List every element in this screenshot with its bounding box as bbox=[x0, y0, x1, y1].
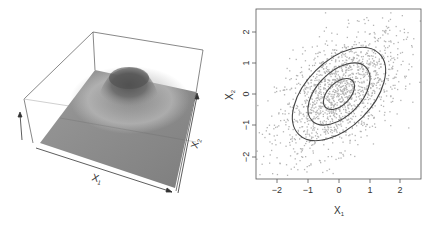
data-point bbox=[355, 100, 356, 101]
data-point bbox=[349, 51, 350, 52]
data-point bbox=[352, 84, 353, 85]
data-point bbox=[360, 137, 361, 138]
data-point bbox=[333, 115, 334, 116]
data-point bbox=[334, 112, 335, 113]
data-point bbox=[393, 57, 394, 58]
data-point bbox=[358, 66, 359, 67]
data-point bbox=[304, 88, 305, 89]
data-point bbox=[339, 77, 340, 78]
data-point bbox=[306, 171, 307, 172]
data-point bbox=[406, 76, 407, 77]
data-point bbox=[351, 51, 352, 52]
data-point bbox=[302, 75, 303, 76]
data-point bbox=[307, 82, 308, 83]
data-point bbox=[316, 117, 317, 118]
data-point bbox=[336, 78, 337, 79]
data-point bbox=[386, 78, 387, 79]
data-point bbox=[326, 62, 327, 63]
data-point bbox=[308, 124, 309, 125]
data-point bbox=[362, 101, 363, 102]
data-point bbox=[340, 87, 341, 88]
data-point bbox=[341, 126, 342, 127]
data-point bbox=[348, 122, 349, 123]
data-point bbox=[400, 30, 401, 31]
data-point bbox=[397, 54, 398, 55]
data-point bbox=[360, 68, 361, 69]
data-point bbox=[335, 75, 336, 76]
data-point bbox=[277, 135, 278, 136]
data-point bbox=[322, 97, 323, 98]
data-point bbox=[342, 121, 343, 122]
data-point bbox=[280, 142, 281, 143]
data-point bbox=[391, 58, 392, 59]
data-point bbox=[318, 88, 319, 89]
data-point bbox=[390, 12, 391, 13]
data-point bbox=[402, 61, 403, 62]
data-point bbox=[311, 70, 312, 71]
data-point bbox=[322, 129, 323, 130]
data-point bbox=[335, 71, 336, 72]
data-point bbox=[331, 156, 332, 157]
data-point bbox=[344, 44, 345, 45]
data-point bbox=[285, 146, 286, 147]
data-point bbox=[361, 122, 362, 123]
data-point bbox=[409, 83, 410, 84]
data-point bbox=[341, 137, 342, 138]
data-point bbox=[341, 68, 342, 69]
data-point bbox=[328, 133, 329, 134]
data-point bbox=[360, 115, 361, 116]
data-point bbox=[375, 64, 376, 65]
data-point bbox=[330, 76, 331, 77]
data-point bbox=[313, 111, 314, 112]
data-point bbox=[367, 60, 368, 61]
data-point bbox=[342, 69, 343, 70]
data-point bbox=[380, 84, 381, 85]
data-point bbox=[296, 134, 297, 135]
data-point bbox=[332, 132, 333, 133]
data-point bbox=[367, 108, 368, 109]
data-point bbox=[373, 25, 374, 26]
data-point bbox=[293, 99, 294, 100]
data-point bbox=[315, 84, 316, 85]
data-point bbox=[352, 134, 353, 135]
data-point bbox=[348, 68, 349, 69]
data-point bbox=[275, 144, 276, 145]
data-point bbox=[326, 40, 327, 41]
data-point bbox=[331, 56, 332, 57]
data-point bbox=[357, 70, 358, 71]
data-point bbox=[380, 37, 381, 38]
data-point bbox=[362, 61, 363, 62]
data-point bbox=[337, 105, 338, 106]
data-point bbox=[375, 57, 376, 58]
data-point bbox=[269, 163, 270, 164]
data-point bbox=[361, 111, 362, 112]
data-point bbox=[319, 75, 320, 76]
data-point bbox=[344, 62, 345, 63]
data-point bbox=[383, 73, 384, 74]
data-point bbox=[363, 74, 364, 75]
data-point bbox=[336, 126, 337, 127]
data-point bbox=[369, 43, 370, 44]
data-point bbox=[294, 138, 295, 139]
data-point bbox=[373, 90, 374, 91]
data-point bbox=[316, 132, 317, 133]
data-point bbox=[387, 27, 388, 28]
data-point bbox=[361, 56, 362, 57]
data-point bbox=[334, 67, 335, 68]
data-point bbox=[358, 60, 359, 61]
data-point bbox=[325, 84, 326, 85]
data-point bbox=[324, 31, 325, 32]
data-point bbox=[334, 101, 335, 102]
data-point bbox=[311, 82, 312, 83]
data-point bbox=[383, 89, 384, 90]
data-point bbox=[361, 87, 362, 88]
data-point bbox=[311, 80, 312, 81]
data-point bbox=[342, 142, 343, 143]
data-point bbox=[334, 130, 335, 131]
data-point bbox=[322, 172, 323, 173]
svg-text:1: 1 bbox=[367, 185, 372, 195]
data-point bbox=[262, 164, 263, 165]
data-point bbox=[361, 121, 362, 122]
data-point bbox=[402, 52, 403, 53]
data-point bbox=[337, 82, 338, 83]
